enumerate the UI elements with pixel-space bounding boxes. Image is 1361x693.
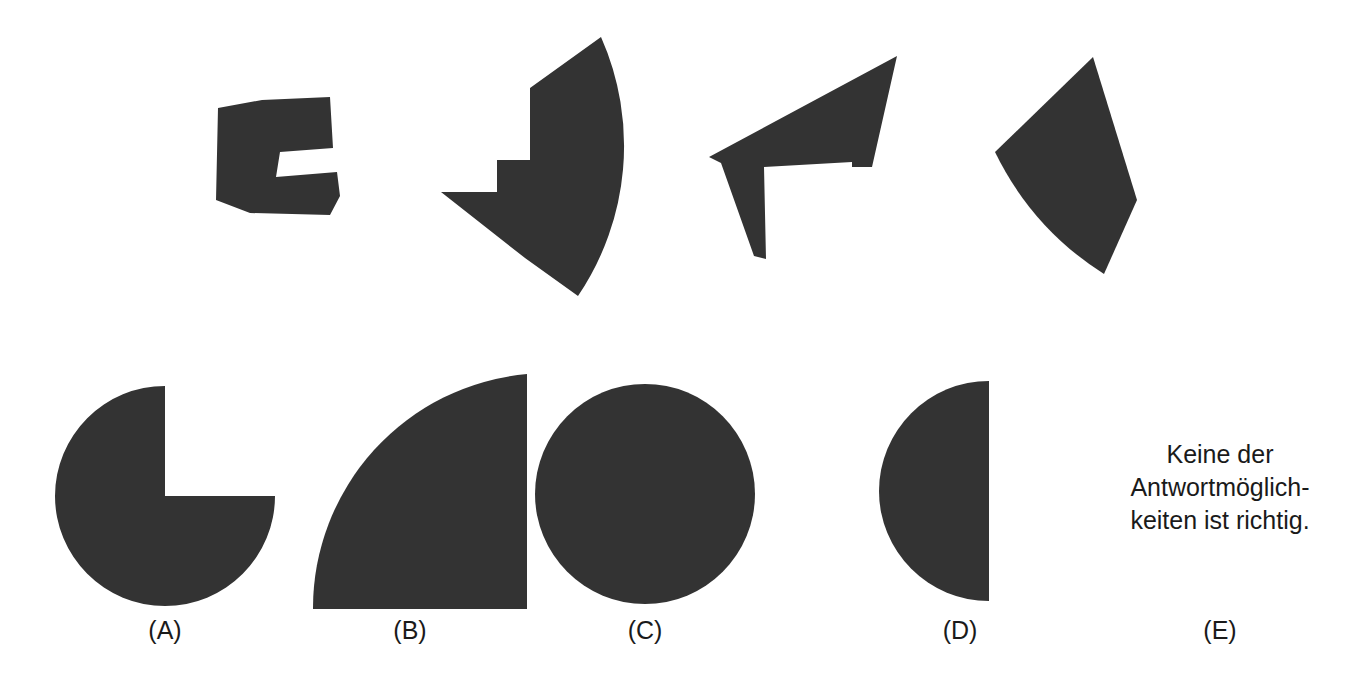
answer-shape-c-path[interactable] <box>535 384 755 604</box>
answer-label-b[interactable]: (B) <box>350 618 470 643</box>
answer-option-e-line1: Keine der <box>1166 440 1273 468</box>
answer-shape-c[interactable] <box>535 384 755 604</box>
answer-option-e-text[interactable]: Keine derAntwortmöglich-keiten ist richt… <box>1095 438 1345 537</box>
answer-option-e-line2: Antwortmöglich- <box>1130 473 1309 501</box>
answer-shape-b[interactable] <box>313 374 527 609</box>
answer-shape-d[interactable] <box>879 381 989 601</box>
answer-shape-b-path[interactable] <box>313 374 527 609</box>
answer-label-a[interactable]: (A) <box>105 618 225 643</box>
answer-label-d[interactable]: (D) <box>900 618 1020 643</box>
answer-label-c[interactable]: (C) <box>585 618 705 643</box>
figure-canvas: Keine derAntwortmöglich-keiten ist richt… <box>0 0 1361 693</box>
answer-option-e-line3: keiten ist richtig. <box>1130 506 1309 534</box>
answer-label-e[interactable]: (E) <box>1160 618 1280 643</box>
answer-shape-a[interactable] <box>55 386 275 606</box>
answer-shape-d-path[interactable] <box>879 381 989 601</box>
answer-shape-a-path[interactable] <box>55 386 275 606</box>
answer-shapes-layer <box>0 0 1361 693</box>
